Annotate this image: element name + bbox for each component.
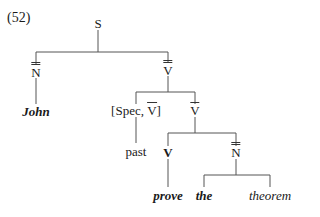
- leaf-theorem: theorem: [249, 189, 291, 203]
- node-v-bar: V: [190, 104, 199, 118]
- leaf-john: John: [22, 105, 49, 119]
- node-spec-v-bar: [Spec, V]: [111, 104, 161, 118]
- node-v: V: [163, 146, 172, 160]
- node-n-double-bar-subject: N: [31, 66, 40, 80]
- node-n-double-bar-object: N: [231, 146, 240, 160]
- leaf-the: the: [196, 189, 213, 203]
- node-s: S: [94, 17, 101, 31]
- leaf-past: past: [126, 145, 147, 159]
- node-v-double-bar: V: [163, 64, 172, 78]
- leaf-prove: prove: [153, 189, 183, 203]
